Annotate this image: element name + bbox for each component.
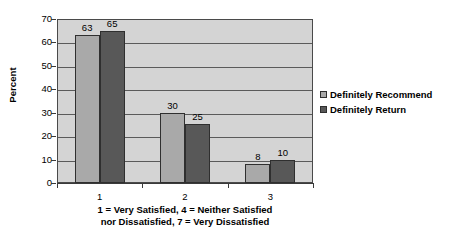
y-axis-tick-labels: 010203040506070 (28, 19, 52, 183)
y-axis-tick (51, 183, 56, 184)
x-axis-tick (228, 183, 229, 188)
y-axis-tick (51, 66, 56, 67)
legend-item-definitely-recommend: Definitely Recommend (320, 88, 458, 101)
y-axis-tick (51, 19, 56, 20)
legend-label-series-0: Definitely Recommend (330, 89, 432, 100)
y-axis-tick-label: 60 (30, 37, 52, 47)
y-axis-tick-label: 20 (30, 131, 52, 141)
y-axis-tick-label: 40 (30, 84, 52, 94)
bar-chart: Percent 010203040506070 63653025810 123 … (0, 0, 462, 233)
legend-swatch-icon-series-0 (320, 91, 327, 98)
y-axis-tick (51, 42, 56, 43)
y-axis-tick (51, 89, 56, 90)
y-axis-tick-label: 0 (30, 178, 52, 188)
y-axis-tick-label: 10 (30, 155, 52, 165)
y-axis-tick-label: 70 (30, 14, 52, 24)
bar-value-label: 65 (94, 19, 131, 29)
bar-value-label: 10 (264, 148, 301, 158)
x-axis-category-label: 1 (80, 191, 120, 202)
bar (270, 160, 295, 183)
y-axis-tick (51, 113, 56, 114)
bar-value-label: 30 (154, 101, 191, 111)
x-axis-line (57, 183, 314, 184)
y-axis-title: Percent (7, 50, 21, 120)
x-axis-tick (142, 183, 143, 188)
legend-swatch-icon-series-1 (320, 106, 327, 113)
legend-item-definitely-return: Definitely Return (320, 103, 458, 116)
y-axis-tick-label: 30 (30, 108, 52, 118)
x-axis-tick (313, 183, 314, 188)
y-axis-tick (51, 136, 56, 137)
x-axis-caption-line-1: 1 = Very Satisfied, 4 = Neither Satisfie… (40, 204, 330, 216)
y-axis-tick (51, 160, 56, 161)
bar (185, 124, 210, 183)
bar (100, 31, 125, 183)
bar (160, 113, 185, 183)
bars-layer: 63653025810 (57, 19, 313, 183)
bar (245, 164, 270, 183)
bar (75, 35, 100, 183)
y-axis-tick-label: 50 (30, 61, 52, 71)
x-axis-tick (57, 183, 58, 188)
bar-value-label: 25 (179, 112, 216, 122)
x-axis-caption: 1 = Very Satisfied, 4 = Neither Satisfie… (40, 204, 330, 227)
x-axis-category-label: 2 (165, 191, 205, 202)
legend-label-series-1: Definitely Return (330, 104, 406, 115)
chart-legend: Definitely Recommend Definitely Return (320, 88, 458, 118)
x-axis-caption-line-2: nor Dissatisfied, 7 = Very Dissatisfied (40, 216, 330, 228)
x-axis-category-label: 3 (250, 191, 290, 202)
